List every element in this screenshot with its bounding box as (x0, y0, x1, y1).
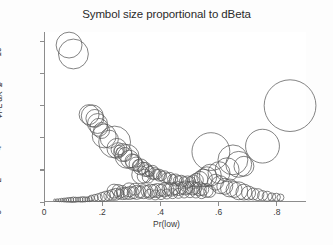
data-point (81, 105, 103, 127)
x-tick-mark (276, 202, 277, 206)
x-tick-mark (160, 202, 161, 206)
plot-area (44, 32, 306, 202)
bubble-series (45, 32, 306, 201)
x-tick-label: .6 (207, 207, 231, 217)
data-point (58, 39, 88, 69)
x-axis-label: Pr(low) (0, 219, 333, 229)
data-point (56, 32, 82, 58)
data-point (264, 80, 316, 132)
x-tick-mark (218, 202, 219, 206)
data-point (226, 182, 242, 198)
data-point (217, 178, 233, 194)
y-tick-label: 10 (0, 41, 3, 63)
data-point (218, 145, 248, 175)
data-point (234, 156, 254, 176)
y-tick-label: 4 (0, 137, 3, 159)
y-tick-label: 8 (0, 73, 3, 95)
x-tick-mark (102, 202, 103, 206)
y-tick-label: 6 (0, 105, 3, 127)
x-tick-label: .2 (90, 207, 114, 217)
x-tick-label: .4 (148, 207, 172, 217)
data-point (246, 129, 280, 163)
chart-title: Symbol size proportional to dBeta (0, 8, 333, 20)
x-tick-label: 0 (32, 207, 56, 217)
x-tick-label: .8 (265, 207, 289, 217)
data-point (79, 105, 99, 125)
chart-figure: Symbol size proportional to dBeta H-L dX… (0, 0, 333, 245)
y-tick-label: 2 (0, 169, 3, 191)
x-tick-mark (44, 202, 45, 206)
